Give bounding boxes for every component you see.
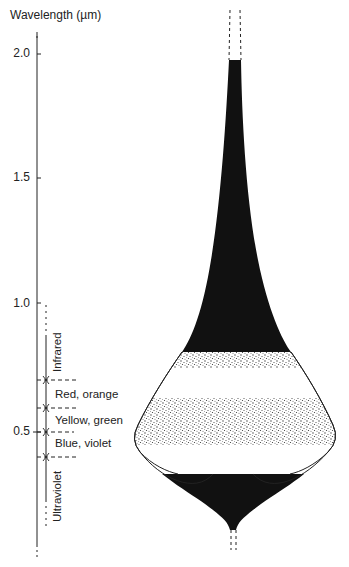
region-label-red-orange: Red, orange (55, 388, 118, 400)
region-label-ultraviolet: Ultraviolet (51, 471, 63, 522)
region-label-infrared: Infrared (51, 332, 63, 372)
region-label-blue-violet: Blue, violet (55, 437, 111, 449)
region-label-yellow-green: Yellow, green (55, 414, 123, 426)
